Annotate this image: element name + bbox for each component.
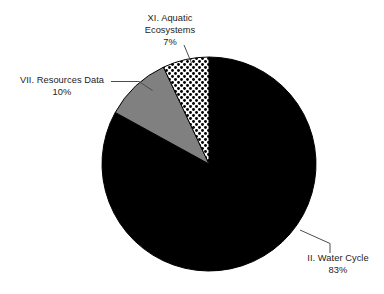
slice-label-resources-data: VII. Resources Data 10% (12, 74, 112, 98)
slice-percent-water-cycle: 83% (296, 264, 380, 276)
slice-label-aquatic-line2: Ecosystems (145, 25, 196, 35)
slice-percent-resources: 10% (12, 86, 112, 98)
slice-label-resources-name: VII. Resources Data (20, 75, 104, 85)
slice-label-aquatic-ecosystems: XI. Aquatic Ecosystems 7% (118, 12, 222, 49)
leader-line-water-cycle (300, 230, 330, 253)
slice-label-water-cycle-name: II. Water Cycle (307, 253, 368, 263)
slice-label-aquatic-line1: XI. Aquatic (148, 13, 193, 23)
pie-slices (102, 57, 316, 271)
slice-label-water-cycle: II. Water Cycle 83% (296, 252, 380, 276)
slice-percent-aquatic: 7% (118, 36, 222, 48)
pie-chart-figure: XI. Aquatic Ecosystems 7% VII. Resources… (0, 0, 384, 294)
